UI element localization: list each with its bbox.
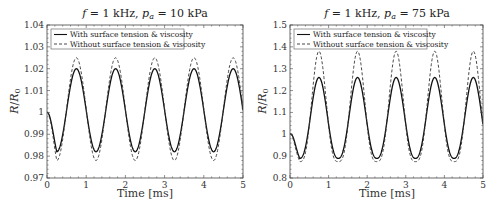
y-tick-label: 1 [38,107,44,117]
series-with-tension-line [290,77,483,158]
y-tick-label: 1.01 [24,86,44,96]
legend-entry-without: Without surface tension & viscosity [70,40,206,49]
y-tick-label: 1.04 [24,20,44,30]
series-without-tension-line [47,58,243,161]
legend: With surface tension & viscosity Without… [294,29,449,49]
chart-title: f = 1 kHz, pa = 75 kPa [323,7,450,21]
chart-title: f = 1 kHz, pa = 10 kPa [81,7,208,21]
y-axis-label: R/R0 [8,88,22,114]
y-tick-label: 1.5 [273,20,288,30]
x-tick-label: 0 [287,180,293,190]
x-tick-label: 1 [326,180,332,190]
legend: With surface tension & viscosity Without… [51,29,206,49]
legend-entry-without: Without surface tension & viscosity [313,40,449,49]
y-tick-label: 1.4 [273,42,288,52]
x-tick-label: 4 [201,180,207,190]
series-without-tension-line [290,51,483,161]
y-tick-label: 0.97 [24,173,44,183]
legend-entry-with: With surface tension & viscosity [313,30,437,39]
series-with-tension-line [47,69,243,152]
y-tick-label: 1.02 [24,64,44,74]
figure: f = 1 kHz, pa = 10 kPa 0123450.970.980.9… [0,0,497,214]
chart-panel-right: f = 1 kHz, pa = 75 kPa 0123450.80.911.11… [256,7,486,200]
x-axis-label: Time [ms] [359,187,415,200]
y-tick-label: 1.1 [273,107,287,117]
x-tick-label: 1 [83,180,89,190]
chart-panel-left: f = 1 kHz, pa = 10 kPa 0123450.970.980.9… [8,7,246,200]
y-tick-label: 1.2 [273,86,287,96]
x-tick-label: 4 [442,180,448,190]
y-tick-label: 0.99 [24,129,44,139]
y-tick-label: 0.9 [273,151,288,161]
y-tick-label: 1.03 [24,42,44,52]
y-tick-label: 0.8 [273,173,288,183]
y-tick-label: 0.98 [24,151,44,161]
y-tick-label: 1.3 [273,64,288,74]
x-tick-label: 5 [240,180,246,190]
x-tick-label: 0 [44,180,50,190]
x-tick-label: 5 [480,180,486,190]
x-axis-label: Time [ms] [117,187,173,200]
y-tick-label: 1 [281,129,287,139]
y-axis-label: R/R0 [256,88,270,114]
legend-entry-with: With surface tension & viscosity [70,30,194,39]
